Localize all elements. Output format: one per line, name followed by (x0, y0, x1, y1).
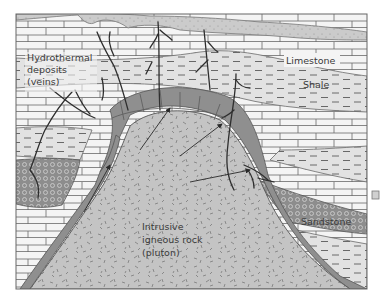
geologic-cross-section: Hydrothermal deposits (veins) Limestone … (0, 0, 383, 302)
label-pluton-line3: (pluton) (142, 247, 180, 258)
label-sandstone: Sandstone (301, 216, 351, 227)
label-hydrothermal-line2: deposits (27, 64, 67, 75)
label-hydrothermal-line1: Hydrothermal (27, 52, 92, 63)
label-pluton-line1: Intrusive (142, 221, 184, 232)
label-shale: Shale (303, 79, 330, 90)
label-hydrothermal-line3: (veins) (27, 76, 60, 87)
label-limestone: Limestone (286, 55, 336, 66)
edge-marker (372, 191, 379, 199)
label-pluton-line2: igneous rock (142, 234, 203, 245)
shale-layer-lower-left (16, 127, 92, 160)
